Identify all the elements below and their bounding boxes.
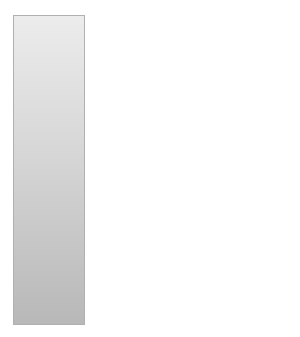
glucose-scale-column (13, 15, 85, 325)
normal-range-brace (84, 70, 100, 156)
